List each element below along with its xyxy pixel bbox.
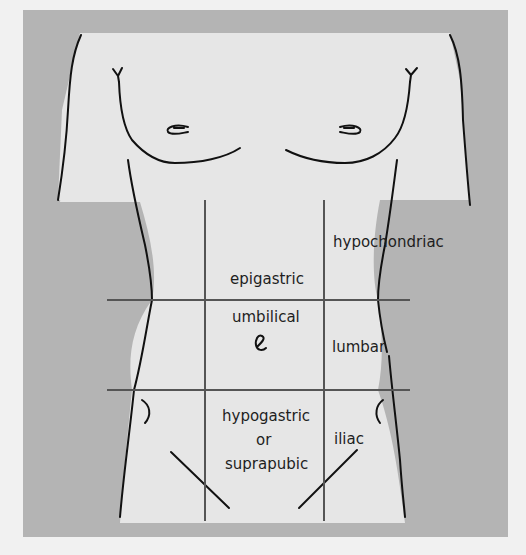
abdominal-regions-diagram: hypochondriac epigastric umbilical lumba… — [0, 0, 526, 555]
label-epigastric: epigastric — [230, 270, 304, 288]
upper-chest-fill — [58, 33, 470, 200]
label-hypochondriac: hypochondriac — [333, 233, 444, 251]
label-suprapubic: suprapubic — [225, 455, 308, 473]
label-hypogastric: hypogastric — [222, 407, 310, 425]
label-iliac: iliac — [334, 430, 364, 448]
label-lumbar: lumbar — [332, 338, 386, 356]
label-or: or — [256, 431, 272, 449]
label-umbilical: umbilical — [232, 308, 300, 326]
